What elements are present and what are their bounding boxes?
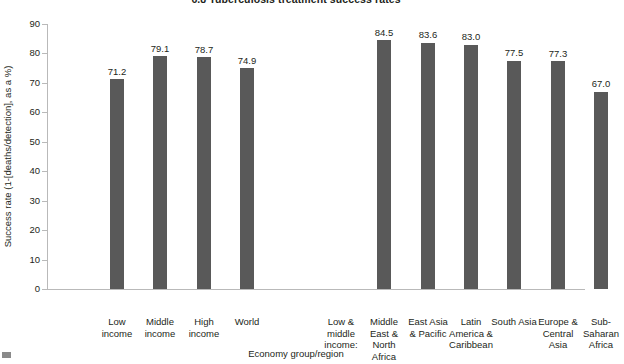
y-axis-tick-label: 20 [29, 225, 40, 235]
plot-area: 0102030405060708090 71.279.178.774.984.5… [47, 24, 585, 289]
y-axis-tick-label: 50 [29, 137, 40, 147]
y-axis-title-text: Success rate (1-[deaths/detection], as a… [3, 66, 14, 248]
y-axis-tick-label: 90 [29, 19, 40, 29]
y-axis-tick-mark [42, 24, 47, 25]
x-axis-title: Economy group/region [0, 348, 592, 359]
x-axis-tick-label: World [221, 316, 273, 328]
bar[interactable]: 84.5 [377, 40, 391, 289]
y-axis-tick-mark [42, 142, 47, 143]
y-axis-tick-mark [42, 112, 47, 113]
y-axis-title: Success rate (1-[deaths/detection], as a… [2, 24, 14, 289]
y-axis-tick-mark [42, 260, 47, 261]
y-axis-tick-mark [42, 230, 47, 231]
bar[interactable]: 83.6 [421, 43, 435, 289]
y-axis-tick-label: 70 [29, 78, 40, 88]
bar-value-label: 84.5 [375, 28, 394, 38]
bar[interactable]: 83.0 [464, 45, 478, 289]
y-axis-tick-label: 10 [29, 255, 40, 265]
bar[interactable]: 74.9 [240, 68, 254, 289]
bar[interactable]: 79.1 [153, 56, 167, 289]
corner-mark [2, 352, 11, 358]
bar[interactable]: 71.2 [110, 79, 124, 289]
bar-value-label: 74.9 [238, 56, 257, 66]
bar-value-label: 71.2 [108, 67, 127, 77]
bar[interactable]: 78.7 [197, 57, 211, 289]
y-axis-tick-label: 30 [29, 196, 40, 206]
x-axis-tick-label-line: Sub- [575, 316, 624, 328]
x-axis-tick-label-line: World [221, 316, 273, 328]
y-axis-line [47, 24, 48, 289]
x-axis-tick-label-line: income [178, 328, 230, 340]
bar-value-label: 77.5 [505, 48, 524, 58]
bar-value-label: 83.0 [462, 32, 481, 42]
y-axis-tick-mark [42, 83, 47, 84]
y-axis-tick-mark [42, 289, 47, 290]
x-axis-tick-label: Sub-SaharanAfrica [575, 316, 624, 351]
y-axis-tick-label: 80 [29, 49, 40, 59]
bar-value-label: 67.0 [592, 79, 611, 89]
y-axis-tick-mark [42, 53, 47, 54]
y-axis-tick-label: 60 [29, 108, 40, 118]
y-axis-tick-mark [42, 201, 47, 202]
bar-value-label: 79.1 [151, 44, 170, 54]
bar[interactable]: 77.3 [551, 61, 565, 289]
y-axis-tick-label: 0 [35, 284, 40, 294]
bar-value-label: 78.7 [195, 45, 214, 55]
y-axis-tick-mark [42, 171, 47, 172]
bar[interactable]: 67.0 [594, 92, 608, 289]
x-axis-tick-label-line: Saharan [575, 328, 624, 340]
y-axis-tick-label: 40 [29, 166, 40, 176]
x-axis-line [47, 289, 585, 290]
x-axis-tick-label-line: America & [445, 328, 497, 340]
bar[interactable]: 77.5 [507, 61, 521, 289]
bar-value-label: 83.6 [419, 30, 438, 40]
chart-title: 6.8 Tuberculosis treatment success rates [0, 0, 592, 5]
bar-value-label: 77.3 [549, 49, 568, 59]
